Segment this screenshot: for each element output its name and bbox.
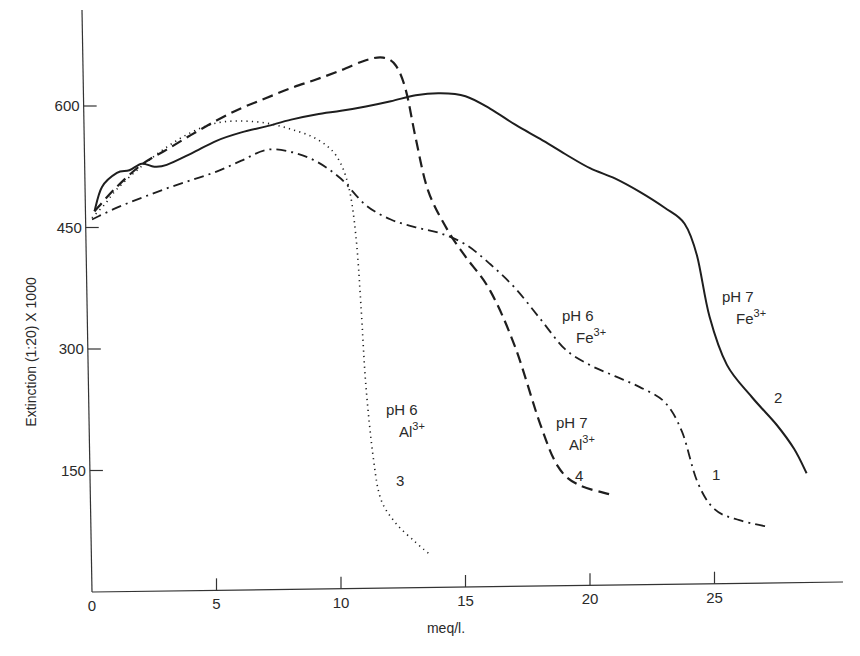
x-tick-label: 0 [88,597,96,614]
y-tick-label: 600 [55,97,80,114]
x-tick-label: 5 [212,595,220,612]
svg-text:pH 6: pH 6 [386,401,418,418]
curve-number-2: 2 [774,389,782,406]
curve-1 [92,149,769,527]
svg-text:Fe3+: Fe3+ [576,326,606,346]
y-tick-label: 300 [59,340,84,357]
curve-3 [92,121,431,555]
svg-text:Al3+: Al3+ [569,433,595,453]
x-tick-label: 15 [457,592,474,609]
svg-text:pH 6: pH 6 [562,307,594,324]
x-axis [92,582,843,592]
y-ticks: 150300450600 [55,97,103,479]
curve-2 [95,93,807,473]
y-axis [82,10,92,592]
x-tick-label: 25 [706,589,723,606]
curve-number-3: 3 [396,472,404,489]
x-ticks: 0510152025 [88,572,723,614]
svg-text:Al3+: Al3+ [399,420,425,440]
y-axis-label: Extinction (1:20) X 1000 [23,277,39,427]
x-axis-label: meq/l. [427,620,465,636]
annotation-ph7-fe: pH 7 Fe3+ [722,288,766,327]
y-tick-label: 450 [57,219,82,236]
curve-4 [95,57,610,494]
annotation-ph6-al: pH 6 Al3+ [386,401,425,440]
annotation-ph7-al: pH 7 Al3+ [556,414,595,453]
x-tick-label: 10 [333,594,350,611]
curve-number-4: 4 [575,467,583,484]
x-tick-label: 20 [582,590,599,607]
svg-text:Fe3+: Fe3+ [736,307,766,327]
svg-text:pH 7: pH 7 [556,414,588,431]
curves [92,57,807,555]
curve-number-1: 1 [712,466,720,483]
annotation-ph6-fe: pH 6 Fe3+ [562,307,606,346]
svg-text:pH 7: pH 7 [722,288,754,305]
y-tick-label: 150 [61,462,86,479]
chart-canvas: 150300450600 0510152025 Extinction (1:20… [0,0,860,656]
